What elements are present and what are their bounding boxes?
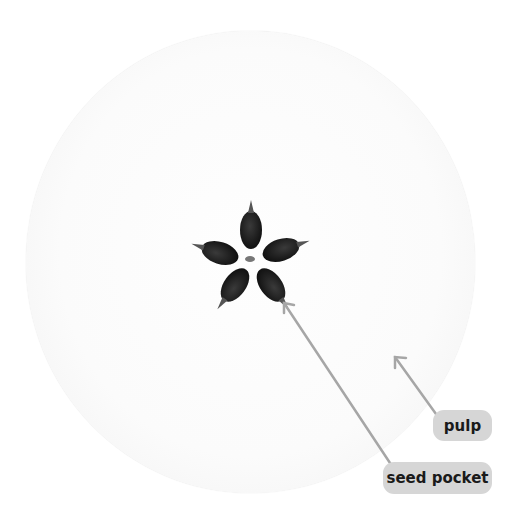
label-seed-pocket-text: seed pocket xyxy=(386,469,488,487)
seed-icon xyxy=(208,263,255,316)
core-center xyxy=(245,256,255,262)
diagram-stage: pulp seed pocket xyxy=(0,0,518,520)
seed-icon xyxy=(240,200,262,249)
seed-icon xyxy=(188,233,241,269)
label-pulp: pulp xyxy=(433,410,492,441)
label-seed-pocket: seed pocket xyxy=(383,462,492,494)
seed-pocket-arrow-icon xyxy=(284,303,392,466)
seeds-and-arrows xyxy=(0,0,518,520)
seed-star xyxy=(188,200,313,316)
label-pulp-text: pulp xyxy=(444,417,481,435)
seed-icon xyxy=(251,263,298,316)
seed-icon xyxy=(260,230,313,266)
pulp-arrow-icon xyxy=(395,357,436,414)
